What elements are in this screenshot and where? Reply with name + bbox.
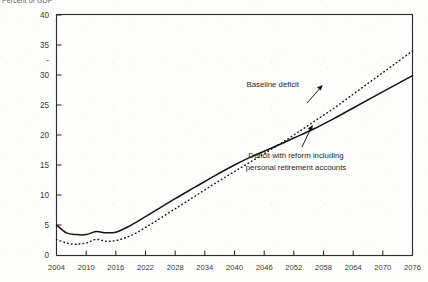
- chart-screenshot: Percent of GDP 40 35 - 30 25 20 15 10 5 …: [0, 0, 428, 282]
- x-tick-label-2076: 2076: [404, 263, 421, 272]
- reform-deficit-annotation: Deficit with reform including personal r…: [246, 125, 347, 172]
- x-tick-label-2022: 2022: [137, 263, 154, 272]
- y-tick-label-0: 0: [44, 251, 49, 260]
- series-baseline-deficit: [57, 51, 413, 244]
- x-tick-label-2052: 2052: [285, 263, 302, 272]
- y-tick-label-dash: -: [46, 56, 49, 65]
- x-tick-label-2016: 2016: [107, 263, 124, 272]
- y-tick-label-10: 10: [40, 191, 50, 200]
- y-tick-label-30: 30: [40, 71, 50, 80]
- x-tick-label-2010: 2010: [78, 263, 95, 272]
- x-tick-label-2034: 2034: [196, 263, 213, 272]
- y-tick-label-15: 15: [40, 161, 50, 170]
- y-tick-label-25: 25: [40, 101, 50, 110]
- baseline-deficit-annotation: Baseline deficit: [247, 80, 323, 103]
- x-axis: 2004 2010 2016 2022 2028 2034 2040 2046 …: [48, 251, 421, 273]
- y-axis: 40 35 - 30 25 20 15 10 5 0: [40, 11, 62, 260]
- y-tick-label-35: 35: [40, 41, 50, 50]
- y-tick-label-20: 20: [40, 131, 50, 140]
- baseline-annotation-label: Baseline deficit: [247, 80, 300, 89]
- x-tick-label-2046: 2046: [256, 263, 273, 272]
- x-tick-label-2004: 2004: [48, 263, 65, 272]
- x-tick-label-2064: 2064: [345, 263, 362, 272]
- baseline-annotation-arrow-icon: [317, 85, 323, 91]
- x-tick-label-2058: 2058: [315, 263, 332, 272]
- deficit-projection-chart: 40 35 - 30 25 20 15 10 5 0 2004: [0, 0, 428, 282]
- reform-annotation-label-line1: Deficit with reform including: [248, 151, 343, 160]
- series-deficit-with-reform: [57, 76, 413, 235]
- x-tick-label-2040: 2040: [226, 263, 243, 272]
- reform-annotation-label-line2: personal retirement accounts: [246, 163, 347, 172]
- y-tick-label-5: 5: [44, 221, 49, 230]
- y-tick-label-40: 40: [40, 11, 50, 20]
- x-tick-label-2028: 2028: [167, 263, 184, 272]
- plot-frame: [57, 15, 413, 256]
- x-tick-label-2070: 2070: [374, 263, 391, 272]
